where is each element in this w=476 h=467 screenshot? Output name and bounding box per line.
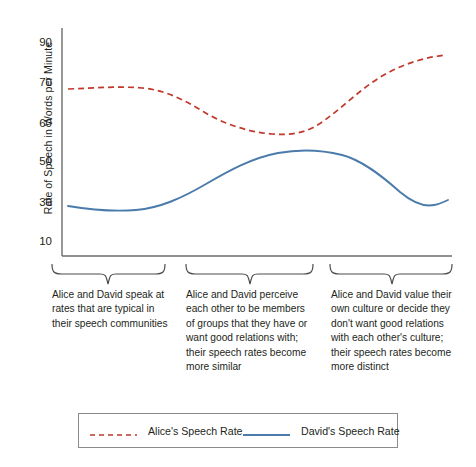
legend-label-alice: Alice's Speech Rate — [148, 425, 242, 437]
series-line-david — [68, 151, 448, 211]
chart-legend: Alice's Speech Rate David's Speech Rate — [78, 413, 398, 448]
braces-svg — [0, 258, 476, 290]
legend-swatch-david-solid-line — [243, 426, 290, 436]
y-tick-label-50: 50 — [22, 155, 52, 167]
series-line-alice — [68, 55, 446, 134]
phase-caption-2: Alice and David perceive each other to b… — [186, 288, 312, 374]
y-tick-label-90: 90 — [22, 36, 52, 48]
phase-captions: Alice and David speak at rates that are … — [0, 288, 476, 398]
legend-entry-alice: Alice's Speech Rate — [90, 414, 242, 447]
plot-area: Rate of Speech in Words per Minute 90 70… — [0, 0, 476, 268]
y-tick-label-70: 70 — [22, 76, 52, 88]
phase-caption-3: Alice and David value their own culture … — [331, 288, 455, 374]
y-tick-label-60: 60 — [22, 117, 52, 129]
phase-caption-1: Alice and David speak at rates that are … — [52, 288, 170, 331]
legend-entry-david: David's Speech Rate — [243, 414, 400, 447]
legend-swatch-alice-dashed-line — [90, 426, 137, 436]
legend-label-david: David's Speech Rate — [301, 425, 400, 437]
brace-phase-2 — [186, 264, 313, 284]
phase-braces — [0, 258, 476, 290]
speech-accommodation-chart-figure: Rate of Speech in Words per Minute 90 70… — [0, 0, 476, 467]
y-tick-label-30: 30 — [22, 196, 52, 208]
brace-phase-1 — [52, 264, 165, 284]
brace-phase-3 — [330, 264, 452, 284]
plot-svg — [0, 0, 476, 268]
y-tick-label-10: 10 — [22, 235, 52, 247]
